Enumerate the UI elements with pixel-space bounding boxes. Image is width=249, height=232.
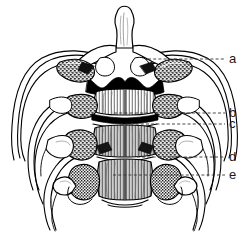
label-e: e <box>229 168 236 181</box>
label-a: a <box>229 52 236 65</box>
label-c: c <box>229 117 236 130</box>
anatomy-figure: a b c d e <box>0 0 249 232</box>
anatomy-illustration <box>0 0 249 232</box>
label-d: d <box>229 150 236 163</box>
